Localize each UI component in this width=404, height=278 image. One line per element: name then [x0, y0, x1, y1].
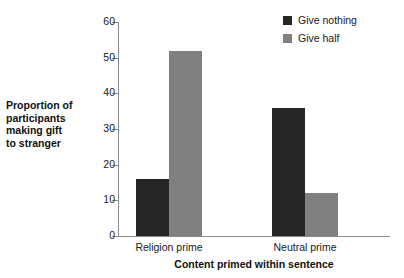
y-axis-title-line: to stranger [6, 137, 90, 150]
bar-neutral-prime-give-nothing [272, 108, 305, 236]
y-axis-title-line: Proportion of [6, 99, 90, 112]
bar-religion-prime-give-half [169, 51, 202, 236]
y-tick-label: 50 [103, 51, 115, 64]
y-tick-label: 30 [103, 122, 115, 135]
bar-neutral-prime-give-half [305, 193, 338, 236]
x-axis-title: Content primed within sentence [118, 258, 390, 271]
y-axis-title-line: participants [6, 112, 90, 125]
plot-area: 0102030405060 [118, 22, 390, 236]
y-axis-title-line: making gift [6, 124, 90, 137]
y-axis-title: Proportion ofparticipantsmaking giftto s… [6, 99, 90, 149]
x-axis-line [118, 236, 390, 237]
y-tick-label: 60 [103, 15, 115, 28]
bar-chart-figure: Give nothing Give half 0102030405060 Pro… [0, 0, 404, 278]
y-tick-label: 40 [103, 86, 115, 99]
y-tick-label: 20 [103, 158, 115, 171]
x-category-label-neutral-prime: Neutral prime [245, 241, 365, 254]
bar-religion-prime-give-nothing [136, 179, 169, 236]
x-category-label-religion-prime: Religion prime [109, 241, 229, 254]
y-tick-label: 10 [103, 193, 115, 206]
